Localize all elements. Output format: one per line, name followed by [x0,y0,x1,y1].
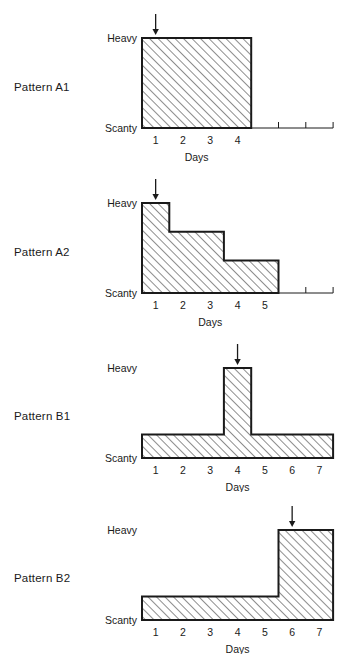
x-axis-title: Days [185,151,209,163]
x-axis-title: Days [226,643,250,654]
x-tick-label: 6 [289,464,295,476]
x-tick-label: 5 [262,626,268,638]
x-tick-label: 7 [317,464,323,476]
x-tick-label: 3 [207,464,213,476]
level-label-heavy: Heavy [107,32,138,44]
level-label-scanty: Scanty [105,614,138,626]
onset-arrow-icon [152,179,158,200]
x-axis-title: Days [226,481,250,492]
x-tick-label: 4 [235,626,241,638]
x-tick-label: 5 [262,464,268,476]
x-tick-label: 3 [207,134,213,146]
pattern-panel-pattern-b1: Pattern B1HeavyScanty1234567Days [0,330,355,492]
x-tick-label: 2 [180,626,186,638]
pattern-panel-pattern-a2: Pattern A2HeavyScanty12345Days [0,165,355,330]
x-tick-label: 2 [180,134,186,146]
bleeding-area-fill [142,368,333,458]
pattern-panel-pattern-a1: Pattern A1HeavyScanty1234Days [0,0,355,165]
x-tick-label: 1 [153,299,159,311]
x-tick-label: 3 [207,626,213,638]
x-axis-title: Days [198,316,222,328]
x-tick-label: 2 [180,464,186,476]
bleeding-pattern-figure: Pattern A1HeavyScanty1234DaysPattern A2H… [0,0,355,654]
bleeding-area-fill [142,38,251,128]
x-tick-label: 4 [235,134,241,146]
x-tick-label: 1 [153,134,159,146]
onset-arrow-icon [152,14,158,35]
level-label-scanty: Scanty [105,122,138,134]
level-label-heavy: Heavy [107,524,138,536]
level-label-heavy: Heavy [107,197,138,209]
x-tick-label: 1 [153,464,159,476]
pattern-panel-pattern-b2: Pattern B2HeavyScanty1234567Days [0,492,355,654]
x-tick-label: 7 [317,626,323,638]
level-label-scanty: Scanty [105,287,138,299]
x-tick-label: 4 [235,299,241,311]
x-tick-label: 3 [207,299,213,311]
peak-arrow-icon [289,506,295,527]
x-tick-label: 5 [262,299,268,311]
level-label-scanty: Scanty [105,452,138,464]
peak-arrow-icon [234,344,240,365]
bleeding-area-fill [142,203,279,293]
x-tick-label: 2 [180,299,186,311]
level-label-heavy: Heavy [107,362,138,374]
x-tick-label: 1 [153,626,159,638]
bleeding-area-fill [142,530,333,620]
x-tick-label: 6 [289,626,295,638]
x-tick-label: 4 [235,464,241,476]
